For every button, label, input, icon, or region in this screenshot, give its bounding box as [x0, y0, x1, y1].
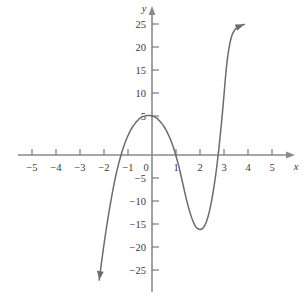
x-tick-label: 5	[269, 162, 274, 173]
curve-right-end-arrow-icon	[235, 24, 245, 30]
x-axis-label: x	[293, 161, 299, 172]
x-axis-arrow-icon	[286, 152, 295, 159]
y-tick-label: 10	[136, 88, 147, 99]
y-tick-label: 25	[136, 19, 147, 30]
x-tick-label: −3	[74, 162, 85, 173]
y-tick-label: −20	[130, 242, 146, 253]
y-tick-label: −10	[130, 196, 146, 207]
cartesian-plot: −5 −4 −3 −2 −1 0 1 2 3 4 5 25 20 15 10 5…	[0, 0, 308, 304]
origin-label: 0	[143, 162, 148, 173]
y-tick-label: −25	[130, 265, 146, 276]
cubic-curve	[99, 24, 244, 280]
y-axis-arrow-icon	[149, 6, 156, 15]
x-tick-label: 4	[245, 162, 251, 173]
y-tick-label: 20	[136, 42, 147, 53]
y-axis-ticks	[152, 24, 159, 270]
y-tick-label: 15	[136, 65, 147, 76]
x-tick-label: −1	[122, 162, 133, 173]
y-tick-labels: 25 20 15 10 5 −5 −10 −15 −20 −25	[130, 19, 146, 276]
y-tick-label: −15	[130, 219, 146, 230]
chart-canvas: −5 −4 −3 −2 −1 0 1 2 3 4 5 25 20 15 10 5…	[0, 0, 308, 304]
axes-group	[18, 6, 295, 292]
x-tick-label: 2	[197, 162, 202, 173]
y-axis-label: y	[141, 3, 147, 14]
x-tick-label: −4	[50, 162, 62, 173]
x-tick-label: −2	[98, 162, 109, 173]
x-tick-label: −5	[26, 162, 37, 173]
x-tick-labels: −5 −4 −3 −2 −1 0 1 2 3 4 5	[26, 162, 274, 173]
x-tick-label: 3	[221, 162, 226, 173]
curve-left-end-arrow-icon	[97, 271, 104, 280]
y-tick-label: −5	[135, 173, 146, 184]
